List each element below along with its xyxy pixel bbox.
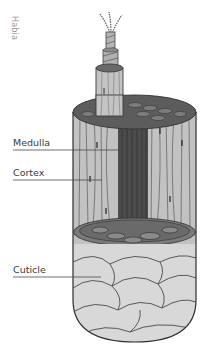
label-medulla: Medulla	[13, 137, 50, 148]
label-cuticle: Cuticle	[13, 264, 46, 275]
hair-shaft-tip	[103, 32, 118, 67]
medulla-core	[118, 118, 148, 226]
hair-tip-strands	[100, 12, 122, 33]
label-cortex: Cortex	[13, 167, 44, 178]
hair-structure-diagram: Habia	[0, 0, 204, 355]
